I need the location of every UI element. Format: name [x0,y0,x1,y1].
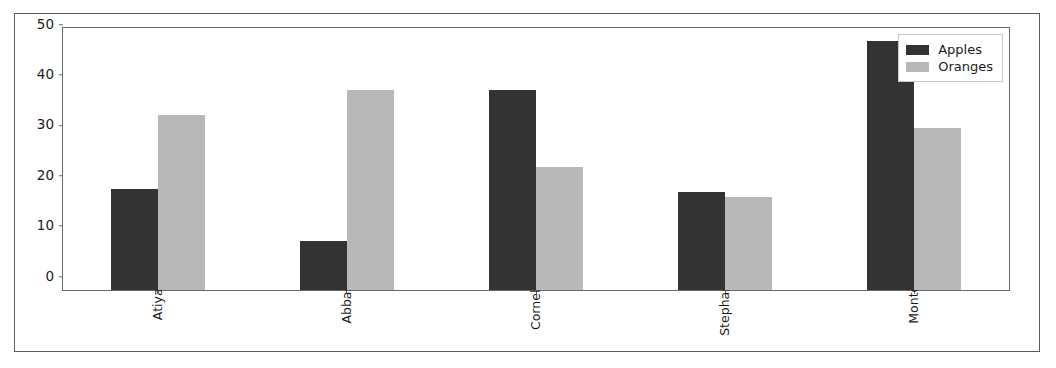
y-axis-tick-label: 40 [37,68,59,82]
y-axis-tick-label: 20 [37,169,59,183]
y-axis-tick: 10 [37,219,63,233]
bar-oranges-stephanie [725,197,772,290]
y-axis-tick-label: 50 [37,18,59,32]
figure-frame: 01020304050 AtiyaAbbasCorneliaStephanieM… [14,13,1040,352]
bar-oranges-abbas [347,90,394,290]
legend-item: Apples [906,41,993,58]
bar-apples-abbas [300,241,347,290]
y-axis-tick-mark [59,24,63,25]
y-axis-tick-mark [59,276,63,277]
y-axis-tick-label: 0 [45,270,59,284]
x-axis-tick-label: Atiya [151,288,164,320]
y-axis-tick: 40 [37,68,63,82]
y-axis-tick: 20 [37,169,63,183]
x-axis-label-wrap: Cornelia [510,294,562,368]
y-axis-tick: 0 [45,270,63,284]
bar-apples-cornelia [489,90,536,290]
legend-label-apples: Apples [938,43,982,56]
legend-label-oranges: Oranges [938,60,993,73]
bar-oranges-cornelia [536,167,583,290]
bar-oranges-atiya [158,115,205,290]
bar-oranges-monte [914,128,961,290]
x-axis-tick-label: Monte [908,285,921,324]
x-axis-label-wrap: Atiya [142,294,174,368]
y-axis-tick-label: 30 [37,119,59,133]
y-axis-tick: 50 [37,18,63,32]
legend-swatch-oranges [906,62,929,72]
chart-legend: Apples Oranges [898,34,1003,82]
y-axis-tick-mark [59,125,63,126]
y-axis-tick-mark [59,74,63,75]
y-axis-tick: 30 [37,119,63,133]
x-axis-label-wrap: Monte [895,294,934,368]
x-axis-label-wrap: Stephanie [694,294,757,368]
legend-item: Oranges [906,58,993,75]
plot-area: 01020304050 AtiyaAbbasCorneliaStephanieM… [62,27,1010,291]
x-axis-tick-label: Abbas [341,285,354,324]
y-axis-tick-label: 10 [37,219,59,233]
bar-apples-stephanie [678,192,725,290]
x-axis-label-wrap: Abbas [328,294,367,368]
y-axis-tick-mark [59,226,63,227]
legend-swatch-apples [906,45,929,55]
bar-apples-atiya [111,189,158,290]
y-axis-tick-mark [59,175,63,176]
